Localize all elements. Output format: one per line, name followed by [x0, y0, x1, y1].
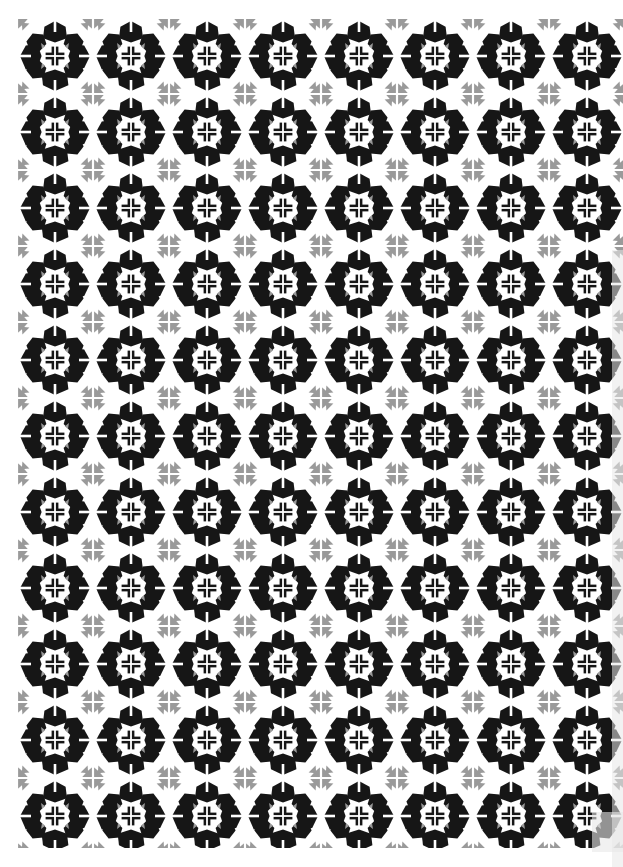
bottom-right-edge-tint [592, 812, 623, 852]
geometric-tile-pattern [0, 0, 623, 867]
pattern-artboard: Islamic Geometric Zellij Tile Pattern Re… [0, 0, 623, 867]
right-edge-tint [612, 250, 623, 867]
pattern-field [17, 18, 623, 848]
